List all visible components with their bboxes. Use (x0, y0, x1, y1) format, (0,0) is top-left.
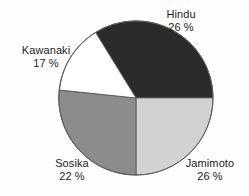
pie-label-hindu-value: 26 % (148, 21, 214, 34)
pie-label-sosika: Sosika 22 % (40, 157, 104, 183)
pie-chart-figure: Hindu 26 % Kawanaki 17 % Sosika 22 % Jam… (0, 0, 249, 196)
pie-label-sosika-value: 22 % (40, 170, 104, 183)
pie-label-kawanaki: Kawanaki 17 % (10, 44, 82, 70)
pie-label-jamimoto: Jamimoto 26 % (174, 157, 246, 183)
pie-label-jamimoto-value: 26 % (174, 170, 246, 183)
pie-label-hindu: Hindu 26 % (148, 8, 214, 34)
pie-label-kawanaki-name: Kawanaki (10, 44, 82, 57)
pie-label-hindu-name: Hindu (148, 8, 214, 21)
pie-label-kawanaki-value: 17 % (10, 57, 82, 70)
pie-label-sosika-name: Sosika (40, 157, 104, 170)
pie-label-jamimoto-name: Jamimoto (174, 157, 246, 170)
